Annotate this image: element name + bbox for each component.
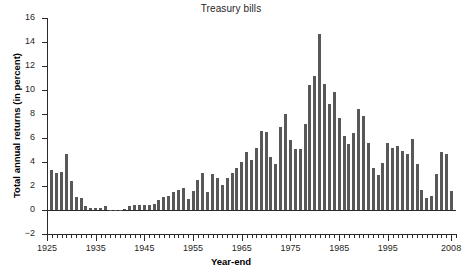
x-tick-minor xyxy=(135,234,136,238)
x-tick-minor xyxy=(178,234,179,238)
x-tick-minor xyxy=(310,234,311,238)
bar xyxy=(177,190,180,210)
bar xyxy=(133,205,136,210)
bar xyxy=(367,143,370,210)
bar xyxy=(84,206,87,210)
bar xyxy=(123,209,126,210)
x-tick-minor xyxy=(427,234,428,238)
y-tick-label: 8 xyxy=(30,108,35,118)
bar xyxy=(406,154,409,210)
y-axis-label: Total annual returns (in percent) xyxy=(11,26,22,226)
x-tick-minor xyxy=(154,234,155,238)
x-tick-minor xyxy=(368,234,369,238)
x-tick-minor xyxy=(349,234,350,238)
bar xyxy=(226,178,229,210)
x-tick-minor xyxy=(393,234,394,238)
x-tick-minor xyxy=(359,234,360,238)
bar xyxy=(250,160,253,210)
bar xyxy=(274,164,277,210)
bar xyxy=(187,199,190,210)
treasury-bills-chart: Treasury bills Total annual returns (in … xyxy=(0,0,462,268)
x-tick-label: 1935 xyxy=(86,243,106,253)
x-tick-minor xyxy=(81,234,82,238)
bar xyxy=(318,34,321,210)
x-tick-minor xyxy=(354,234,355,238)
bar xyxy=(50,170,53,210)
x-tick-minor xyxy=(149,234,150,238)
x-tick-major xyxy=(96,234,97,241)
x-tick-major xyxy=(144,234,145,241)
bar xyxy=(128,206,131,210)
bar xyxy=(221,185,224,210)
x-tick-minor xyxy=(71,234,72,238)
x-tick-major xyxy=(47,234,48,241)
x-tick-minor xyxy=(412,234,413,238)
x-tick-label: 2008 xyxy=(441,243,461,253)
x-tick-major xyxy=(242,234,243,241)
x-tick-minor xyxy=(57,234,58,238)
x-tick-minor xyxy=(252,234,253,238)
bar xyxy=(192,191,195,210)
bar xyxy=(396,146,399,210)
x-tick-minor xyxy=(329,234,330,238)
x-tick-minor xyxy=(373,234,374,238)
bar xyxy=(89,208,92,210)
bar xyxy=(148,205,151,210)
bar xyxy=(420,190,423,210)
x-tick-major xyxy=(339,234,340,241)
x-tick-minor xyxy=(378,234,379,238)
bar xyxy=(377,175,380,210)
x-tick-minor xyxy=(115,234,116,238)
x-tick-label: 1995 xyxy=(378,243,398,253)
bar xyxy=(104,206,107,210)
bar xyxy=(357,109,360,210)
x-tick-minor xyxy=(247,234,248,238)
x-tick-minor xyxy=(256,234,257,238)
bar xyxy=(231,173,234,210)
x-tick-minor xyxy=(437,234,438,238)
bar xyxy=(143,205,146,210)
bar xyxy=(440,152,443,210)
x-tick-minor xyxy=(232,234,233,238)
bar xyxy=(70,181,73,210)
bar xyxy=(299,149,302,210)
bar xyxy=(425,198,428,210)
bar xyxy=(308,85,311,210)
bar xyxy=(60,172,63,210)
x-tick-label: 1965 xyxy=(232,243,252,253)
x-tick-minor xyxy=(125,234,126,238)
x-axis-label: Year-end xyxy=(0,256,462,267)
bar xyxy=(153,204,156,210)
x-tick-minor xyxy=(120,234,121,238)
bar xyxy=(119,210,122,211)
bar xyxy=(343,136,346,210)
bar xyxy=(347,144,350,210)
x-tick-minor xyxy=(383,234,384,238)
x-tick-minor xyxy=(363,234,364,238)
x-tick-minor xyxy=(159,234,160,238)
y-tick-label: 14 xyxy=(25,36,35,46)
x-tick-minor xyxy=(276,234,277,238)
x-tick-minor xyxy=(422,234,423,238)
bar xyxy=(381,163,384,210)
bar xyxy=(80,198,83,210)
bar xyxy=(391,148,394,210)
x-tick-minor xyxy=(66,234,67,238)
bar xyxy=(138,205,141,210)
x-tick-label: 1985 xyxy=(329,243,349,253)
x-tick-minor xyxy=(446,234,447,238)
x-tick-minor xyxy=(217,234,218,238)
x-tick-minor xyxy=(407,234,408,238)
bar xyxy=(435,174,438,210)
bar xyxy=(328,104,331,210)
bar xyxy=(211,174,214,210)
y-tick-label: −2 xyxy=(25,228,35,238)
y-tick-label: 2 xyxy=(30,180,35,190)
bar xyxy=(75,197,78,210)
x-tick-minor xyxy=(86,234,87,238)
bar xyxy=(94,208,97,210)
x-tick-minor xyxy=(208,234,209,238)
x-tick-major xyxy=(388,234,389,241)
x-tick-minor xyxy=(62,234,63,238)
bar xyxy=(401,151,404,210)
